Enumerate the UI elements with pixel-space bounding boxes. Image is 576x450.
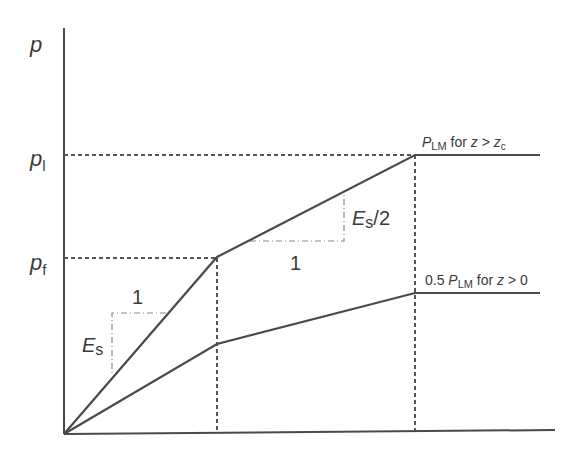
slope-2-rise: Es/2 bbox=[352, 207, 390, 231]
pf-label: pf bbox=[29, 250, 47, 278]
slope-triangle-2 bbox=[250, 195, 344, 241]
slope-triangle-1 bbox=[112, 313, 166, 373]
slope-1-rise: Es bbox=[82, 334, 103, 358]
slope-2-run: 1 bbox=[290, 252, 301, 274]
pl-label: pl bbox=[29, 146, 46, 174]
x-axis bbox=[64, 430, 555, 434]
upper-curve-label: PLM for z > zc bbox=[422, 134, 506, 152]
lower-curve-label: 0.5 PLM for z > 0 bbox=[425, 272, 528, 290]
p-y-diagram: p pl pf 1 Es 1 Es/2 PLM for z > zc 0.5 P… bbox=[0, 0, 576, 450]
slope-1-run: 1 bbox=[132, 286, 143, 308]
lower-curve bbox=[64, 293, 540, 434]
y-axis-label: p bbox=[29, 32, 42, 57]
